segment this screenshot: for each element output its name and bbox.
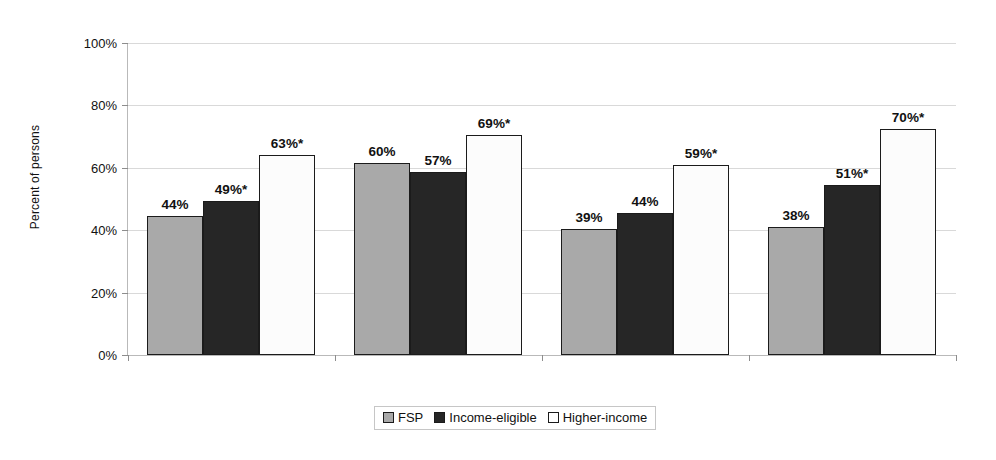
bar-value-label: 63%* [271,136,303,151]
x-tick-mark [128,355,129,361]
bar-fsp-adults: 39% [561,229,617,355]
legend-item-fsp: FSP [383,410,423,425]
bar-fsp-children: 60% [354,163,410,355]
y-tick-mark [122,168,128,169]
bar-higher-income-adults: 59%* [673,165,729,355]
bar-value-label: 60% [368,144,395,159]
y-axis-line [127,43,128,355]
legend-swatch-icon [548,412,559,423]
y-tick-mark [122,293,128,294]
bar-value-label: 44% [631,194,658,209]
legend-swatch-icon [434,412,445,423]
y-tick-label: 0% [98,348,117,363]
y-tick-mark [122,230,128,231]
bar-income-eligible-children: 57% [410,172,466,355]
bar-value-label: 49%* [215,182,247,197]
bar-value-label: 70%* [892,110,924,125]
y-axis-title: Percent of persons [28,97,42,257]
y-tick-label: 100% [84,36,117,51]
y-tick-label: 60% [91,160,117,175]
bar-fsp-all-persons: 44% [147,216,203,355]
bar-value-label: 59%* [685,146,717,161]
legend-label: Higher-income [563,410,648,425]
gridline [128,43,956,44]
x-tick-mark [335,355,336,361]
y-tick-label: 20% [91,285,117,300]
bar-value-label: 57% [424,153,451,168]
chart-legend: FSPIncome-eligibleHigher-income [374,406,656,430]
y-tick-label: 40% [91,223,117,238]
bar-higher-income-children: 69%* [466,135,522,355]
bar-value-label: 51%* [836,166,868,181]
y-tick-label: 80% [91,98,117,113]
bar-income-eligible-all-persons: 49%* [203,201,259,355]
x-tick-mark [956,355,957,361]
legend-item-higher-income: Higher-income [548,410,648,425]
plot-area: 0%20%40%60%80%100% 44%49%*63%*60%57%69%*… [128,43,956,355]
y-tick-mark [122,43,128,44]
legend-item-income-eligible: Income-eligible [434,410,536,425]
gridline [128,105,956,106]
gridline [128,168,956,169]
bar-income-eligible-adults: 44% [617,213,673,355]
x-tick-mark [749,355,750,361]
bar-chart: Percent of persons 0%20%40%60%80%100% 44… [0,0,996,460]
bar-value-label: 44% [161,197,188,212]
bar-income-eligible-older-adults: 51%* [824,185,880,355]
bar-value-label: 38% [782,208,809,223]
bar-higher-income-all-persons: 63%* [259,155,315,355]
legend-label: FSP [398,410,423,425]
bar-fsp-older-adults: 38% [768,227,824,355]
x-tick-mark [542,355,543,361]
legend-swatch-icon [383,412,394,423]
bar-higher-income-older-adults: 70%* [880,129,936,355]
y-tick-mark [122,105,128,106]
bar-value-label: 69%* [478,116,510,131]
legend-label: Income-eligible [449,410,536,425]
bar-value-label: 39% [575,210,602,225]
